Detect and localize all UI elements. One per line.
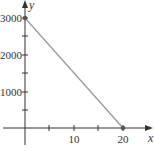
x-axis-label: x: [147, 131, 154, 145]
xtick-label-20: 20: [118, 133, 130, 145]
chart: y x 3000 2000 1000 10 20: [0, 0, 154, 151]
ytick-label-3000: 3000: [0, 12, 23, 24]
data-line: [25, 18, 123, 128]
ytick-label-2000: 2000: [0, 49, 23, 61]
y-axis-arrow-icon: [22, 0, 28, 8]
y-axis-label: y: [28, 0, 35, 12]
ytick-label-1000: 1000: [0, 86, 23, 98]
xtick-label-10: 10: [69, 133, 81, 145]
data-point-x-intercept: [121, 126, 126, 131]
data-point-y-intercept: [23, 16, 28, 21]
